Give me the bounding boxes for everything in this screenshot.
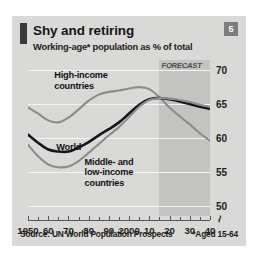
x-axis-tick-1975: [79, 217, 80, 220]
chart-figure: Shy and retiring Working-age* population…: [12, 16, 246, 246]
accent-bar: [20, 23, 27, 44]
x-axis-tick-1985: [99, 217, 100, 220]
x-axis-tick-1950: [28, 216, 29, 220]
x-axis-line: [28, 220, 210, 221]
x-axis-tick-1990: [109, 216, 110, 220]
x-axis-tick-2010: [149, 216, 150, 220]
x-axis-label-1980: 80: [83, 225, 94, 236]
chart-subtitle: Working-age* population as % of total: [33, 41, 192, 52]
x-axis-tick-1955: [38, 217, 39, 220]
x-axis-label-1990: 90: [104, 225, 115, 236]
x-axis-label-2020: 20: [164, 225, 175, 236]
x-axis-tick-2040: [210, 216, 211, 220]
x-axis-tick-2035: [200, 217, 201, 220]
x-axis-tick-1995: [119, 217, 120, 220]
x-axis-tick-1960: [48, 216, 49, 220]
x-axis-tick-2025: [180, 217, 181, 220]
y-axis-label-50: 50: [216, 200, 227, 211]
y-axis-label-70: 70: [216, 65, 227, 76]
series-label-line: countries: [54, 81, 107, 92]
series-line-high-income-countries: [28, 87, 210, 141]
y-axis-label-55: 55: [216, 166, 227, 177]
x-axis-label-1970: 70: [63, 225, 74, 236]
x-axis-label-2040: 40: [205, 225, 216, 236]
x-axis-tick-2015: [159, 217, 160, 220]
series-label-line: High-income: [54, 70, 107, 81]
x-axis-label-1960: 60: [43, 225, 54, 236]
series-label-line: Middle- and: [85, 157, 134, 168]
x-axis-tick-2000: [129, 216, 130, 220]
forecast-annotation: FORECAST: [161, 61, 201, 70]
series-label-high-income-countries: High-incomecountries: [54, 70, 107, 91]
x-axis-tick-2005: [139, 217, 140, 220]
x-axis-tick-1980: [89, 216, 90, 220]
x-axis-label-2030: 30: [184, 225, 195, 236]
status-badge: 5: [224, 22, 238, 36]
axis-break-icon: ≀: [217, 213, 221, 224]
series-label-world: World: [56, 142, 81, 153]
x-axis-tick-1965: [58, 217, 59, 220]
series-label-middle-and-low-income-countries: Middle- andlow-incomecountries: [85, 157, 134, 189]
series-label-line: World: [56, 142, 81, 153]
x-axis-tick-2030: [190, 216, 191, 220]
series-label-line: low-income: [85, 167, 134, 178]
page-title: Shy and retiring: [33, 23, 134, 38]
y-axis-label-60: 60: [216, 133, 227, 144]
x-axis-tick-1970: [68, 216, 69, 220]
x-axis-label-2010: 10: [144, 225, 155, 236]
series-label-line: countries: [85, 178, 134, 189]
x-axis-label-1950: 1950: [17, 225, 38, 236]
y-axis-label-65: 65: [216, 99, 227, 110]
series-line-world: [28, 98, 210, 152]
x-axis-label-2000: 2000: [118, 225, 139, 236]
x-axis-tick-2020: [170, 216, 171, 220]
